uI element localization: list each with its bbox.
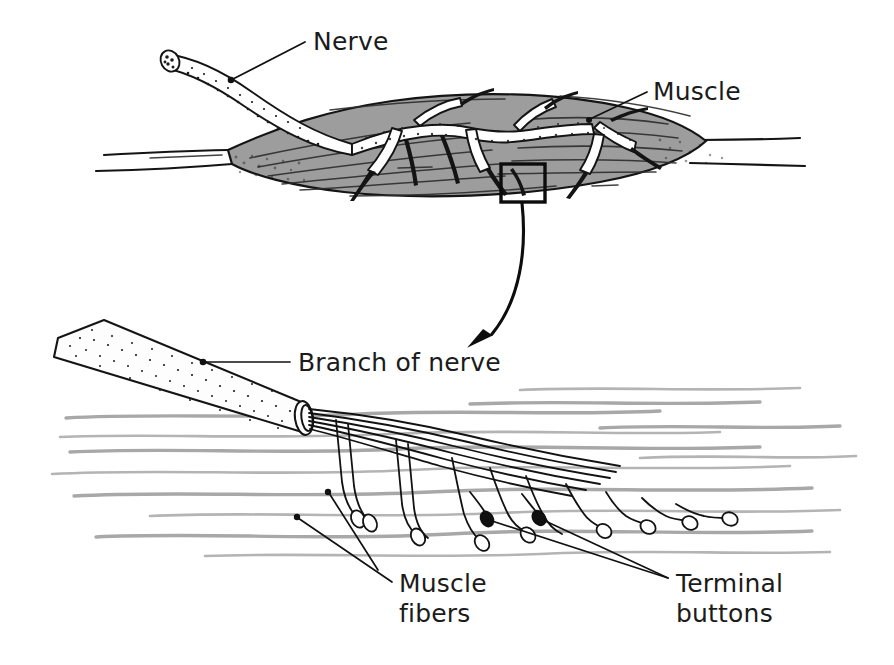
leader-dot-nerve [228, 77, 235, 84]
label-terminal-buttons-line2: buttons [676, 599, 773, 628]
anatomy-illustration: Nerve Muscle Branch of nerve Muscle fibe… [0, 0, 894, 665]
right-tendon [690, 138, 805, 166]
label-muscle: Muscle [653, 77, 741, 106]
label-muscle-fibers-line1: Muscle [399, 569, 487, 598]
label-terminal-buttons-line1: Terminal [675, 569, 783, 598]
nerve-branch-tube [54, 320, 315, 436]
magnification-arrow [467, 203, 523, 353]
left-tendon [96, 150, 232, 171]
figure-root: Nerve Muscle Branch of nerve Muscle fibe… [0, 0, 894, 665]
leader-line-muscle-fibers-b [298, 518, 392, 582]
label-nerve: Nerve [313, 27, 389, 56]
label-muscle-fibers-line2: fibers [399, 599, 471, 628]
label-branch-of-nerve: Branch of nerve [298, 348, 501, 377]
leader-line-nerve [233, 42, 305, 79]
